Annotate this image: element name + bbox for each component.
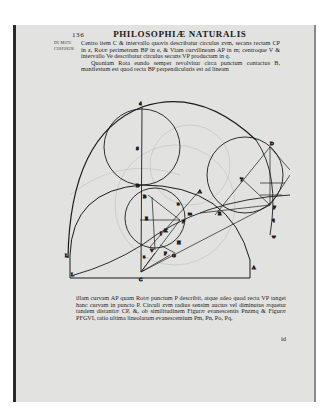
marginal-note-line-2: Corporum	[54, 46, 74, 52]
label-F-right: F	[273, 205, 276, 210]
catchword: id	[281, 335, 286, 342]
label-w: w	[272, 234, 276, 239]
label-H: H	[177, 240, 181, 245]
paragraph-1: Centro item C & intervallo quovis descri…	[81, 40, 280, 60]
label-K: K	[164, 228, 168, 233]
paragraph-2: Quoniam Rota eundo semper revolvitur cir…	[81, 60, 280, 73]
label-P: P	[182, 219, 185, 224]
running-head: 136 PHILOSOPHIÆ NATURALIS	[72, 29, 282, 39]
label-z: z	[143, 254, 146, 259]
label-L-left: L	[65, 253, 68, 258]
label-E: E	[145, 216, 148, 221]
label-F: F	[164, 251, 167, 256]
label-S: S	[136, 146, 139, 151]
marginal-note-line-1: De Motu	[54, 40, 74, 46]
label-A-bottom: A	[252, 265, 256, 270]
label-A-right: A	[198, 189, 202, 194]
inner-curve	[74, 195, 290, 275]
label-B-left: B	[143, 194, 147, 199]
label-d: d	[139, 101, 142, 106]
rolling-circle	[125, 188, 185, 248]
paragraph-3: illam curvam AP quam Rotæ punctum P desc…	[76, 295, 286, 321]
geometric-diagram: d S B B E A A L L C V P F G H I K R T m …	[60, 95, 290, 295]
label-L-bottom: L	[71, 272, 74, 277]
label-m: m	[188, 211, 192, 216]
label-V: V	[150, 248, 154, 253]
marginal-note: De Motu Corporum	[54, 40, 74, 51]
construction-lines	[140, 147, 290, 272]
vertical-axis	[141, 107, 142, 272]
top-text-block: Centro item C & intervallo quovis descri…	[81, 40, 280, 73]
label-q: q	[272, 217, 275, 222]
page-number: 136	[72, 31, 84, 39]
running-title: PHILOSOPHIÆ NATURALIS	[113, 29, 246, 39]
label-T: T	[240, 177, 243, 182]
bottom-text-block: illam curvam AP quam Rotæ punctum P desc…	[76, 295, 286, 321]
label-G: G	[172, 253, 176, 258]
label-R: R	[218, 211, 222, 216]
label-D: D	[270, 141, 274, 146]
